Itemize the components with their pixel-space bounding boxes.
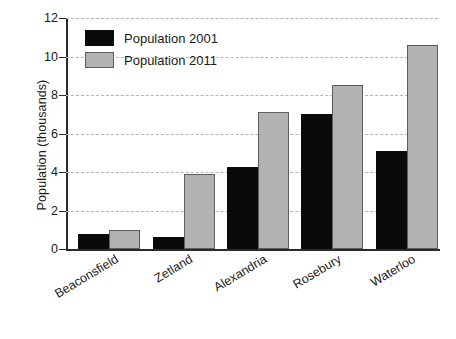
x-axis-line <box>66 249 440 251</box>
bar <box>258 112 289 249</box>
y-axis-tick <box>59 57 66 58</box>
legend-swatch-icon <box>85 52 114 68</box>
y-axis-tick-label: 4 <box>30 165 58 179</box>
y-axis-tick-label: 2 <box>30 204 58 218</box>
y-axis-tick <box>59 95 66 96</box>
y-axis-tick <box>59 249 66 250</box>
x-axis-label: Zetland <box>152 252 195 285</box>
bar <box>109 230 140 249</box>
bar <box>407 45 438 249</box>
y-axis-tick-label: 10 <box>30 50 58 64</box>
y-axis-tick <box>59 172 66 173</box>
legend-item: Population 2011 <box>85 52 218 68</box>
legend-item: Population 2001 <box>85 30 218 46</box>
legend-label: Population 2011 <box>124 53 217 68</box>
bar <box>153 237 184 249</box>
bar <box>184 174 215 249</box>
legend-swatch-icon <box>85 30 114 46</box>
bar-chart: Population (thousands) 024681012 Beacons… <box>0 0 456 339</box>
bar <box>376 151 407 249</box>
bar <box>301 114 332 249</box>
y-axis-tick-label: 12 <box>30 11 58 25</box>
bar <box>332 85 363 249</box>
y-axis-tick <box>59 211 66 212</box>
x-axis-label: Alexandria <box>211 252 269 294</box>
y-axis-tick-label: 8 <box>30 88 58 102</box>
x-axis-label: Beaconsfield <box>52 252 121 301</box>
bar <box>227 167 258 249</box>
y-axis-tick-label: 0 <box>30 242 58 256</box>
legend-label: Population 2001 <box>124 31 218 46</box>
y-axis-tick-label: 6 <box>30 127 58 141</box>
y-axis-tick <box>59 134 66 135</box>
x-axis-labels: BeaconsfieldZetlandAlexandriaRoseburyWat… <box>66 252 438 339</box>
x-axis-label: Rosebury <box>291 252 344 292</box>
x-axis-label: Waterloo <box>368 252 418 290</box>
bar <box>78 234 109 249</box>
y-axis-tick <box>59 18 66 19</box>
chart-legend: Population 2001Population 2011 <box>85 30 218 68</box>
